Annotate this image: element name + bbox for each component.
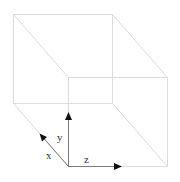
cube-svg: y x z <box>0 0 180 182</box>
cube-edge-bottom-right <box>113 104 168 167</box>
z-axis <box>69 163 123 170</box>
z-axis-label: z <box>84 153 89 165</box>
cube-back-face <box>14 15 113 104</box>
y-axis-arrowhead-icon <box>65 112 72 120</box>
x-axis-label: x <box>46 149 52 161</box>
x-axis <box>40 134 69 167</box>
y-axis <box>65 112 72 167</box>
cube-edge-top-right <box>113 15 168 78</box>
cube-edge-top-left <box>14 15 69 78</box>
z-axis-arrowhead-icon <box>114 163 122 170</box>
cube-diagram: y x z <box>0 0 180 182</box>
y-axis-label: y <box>57 131 63 143</box>
